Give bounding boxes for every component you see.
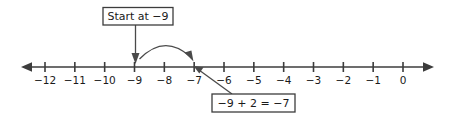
tick-label: −4 (276, 74, 292, 86)
jump-arc (140, 46, 191, 59)
number-line-canvas: −12−11−10−9−8−7−6−5−4−3−2−10 Start at −9… (0, 0, 450, 124)
result-callout-label: −9 + 2 = −7 (218, 97, 290, 110)
tick-group: −12−11−10−9−8−7−6−5−4−3−2−10 (34, 62, 406, 86)
start-callout-arrow-icon (132, 53, 140, 64)
tick-label: −3 (306, 74, 321, 86)
result-callout[interactable]: −9 + 2 = −7 (212, 94, 295, 112)
tick-label: −2 (336, 74, 351, 86)
tick-label: −1 (365, 74, 380, 86)
tick-label: 0 (400, 74, 407, 86)
start-callout-label: Start at −9 (107, 10, 168, 23)
jump-arc-arrow-icon (185, 51, 194, 62)
tick-label: −9 (127, 74, 142, 86)
tick-label: −12 (34, 74, 56, 86)
tick-label: −10 (94, 74, 116, 86)
axis-left-arrow-icon (21, 62, 32, 71)
number-line-diagram: −12−11−10−9−8−7−6−5−4−3−2−10 Start at −9… (0, 0, 450, 124)
axis-right-arrow-icon (423, 62, 434, 71)
tick-label: −11 (64, 74, 86, 86)
tick-label: −5 (246, 74, 261, 86)
start-callout[interactable]: Start at −9 (103, 8, 173, 26)
tick-label: −8 (157, 74, 172, 86)
tick-label: −7 (186, 74, 201, 86)
